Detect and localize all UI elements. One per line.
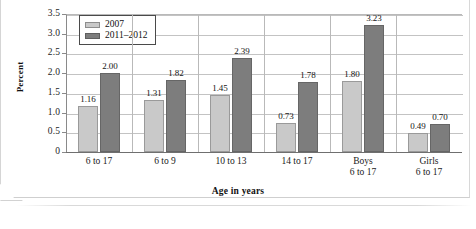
bar-2011-2012 [364,25,384,152]
bar-2011-2012 [232,58,252,152]
y-axis-tick [62,113,66,114]
bar-2007 [276,123,296,152]
bar-2007 [342,81,362,152]
category-label-line1: 14 to 17 [281,156,312,166]
bar-2011-2012 [100,73,120,152]
group-separator [264,14,265,152]
bar-value-label: 2.00 [96,62,124,71]
x-axis-title: Age in years [0,186,476,196]
bar-2011-2012 [166,80,186,152]
legend-item-2011-2012: 2011–2012 [85,30,147,41]
category-label-line2: 6 to 17 [389,167,469,178]
group-separator [330,14,331,152]
group-separator [396,14,397,152]
y-axis-tick [62,14,66,15]
y-axis-tick [62,152,66,153]
bar-value-label: 0.73 [272,112,300,121]
y-axis-tick-label: 1.0 [0,108,60,118]
bar-value-label: 1.80 [338,70,366,79]
y-axis-tick [62,34,66,35]
legend-swatch-icon-2011-2012 [85,33,100,39]
y-axis-tick [62,93,66,94]
group-separator [132,14,133,152]
bar-value-label: 1.16 [74,95,102,104]
y-axis-tick-label: 3.0 [0,29,60,39]
bar-2011-2012 [430,124,450,152]
x-axis-category-label: Girls6 to 17 [389,156,469,178]
bar-value-label: 1.31 [140,89,168,98]
category-label-line1: 10 to 13 [215,156,246,166]
gridline [67,114,463,115]
bar-value-label: 1.45 [206,84,234,93]
gridline [67,54,463,55]
group-separator [198,14,199,152]
bar-2007 [78,106,98,152]
y-axis-tick-label: 2.0 [0,68,60,78]
bar-chart: Percent 3.53.02.52.01.51.00.50 2007 2011… [0,0,476,229]
y-axis-tick [62,53,66,54]
gridline [67,133,463,134]
y-axis-tick-label: 2.5 [0,48,60,58]
bar-value-label: 2.39 [228,47,256,56]
legend-item-2007: 2007 [85,19,147,30]
y-axis-tick-label: 3.5 [0,9,60,19]
bar-value-label: 1.82 [162,69,190,78]
gridline [67,94,463,95]
y-axis-tick-label: 0.5 [0,127,60,137]
gridline [67,74,463,75]
bar-value-label: 3.23 [360,14,388,23]
bar-value-label: 0.70 [426,113,454,122]
legend-label-2007: 2007 [105,20,124,30]
bar-value-label: 1.78 [294,71,322,80]
y-axis-tick-label: 1.5 [0,88,60,98]
y-axis-tick [62,132,66,133]
bar-2007 [144,100,164,152]
x-axis-line [66,152,462,153]
category-label-line1: Boys [353,156,373,166]
y-axis-tick-label: 0 [0,147,60,157]
category-label-line1: 6 to 9 [154,156,176,166]
bar-value-label: 0.49 [404,122,432,131]
bar-2011-2012 [298,82,318,152]
category-label-line1: Girls [420,156,439,166]
chart-legend: 2007 2011–2012 [79,15,156,45]
bar-2007 [210,95,230,152]
bar-2007 [408,133,428,152]
legend-swatch-icon-2007 [85,22,100,28]
legend-label-2011-2012: 2011–2012 [105,31,147,41]
category-label-line1: 6 to 17 [86,156,112,166]
y-axis-tick [62,73,66,74]
